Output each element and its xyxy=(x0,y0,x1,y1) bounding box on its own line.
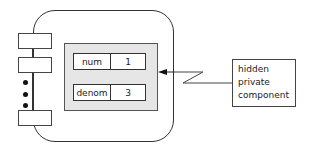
callout-line-3: component xyxy=(238,89,295,102)
ellipsis-dot-2 xyxy=(23,92,28,97)
field-num: num 1 xyxy=(73,53,146,70)
interface-method-tab-1 xyxy=(18,33,52,49)
ellipsis-dot-3 xyxy=(23,103,28,108)
field-name: num xyxy=(74,54,111,69)
field-value: 1 xyxy=(111,54,145,69)
encapsulation-diagram: num 1 denom 3 hidden private component xyxy=(0,0,309,150)
interface-spine xyxy=(32,40,33,120)
field-value: 3 xyxy=(111,85,145,100)
field-denom: denom 3 xyxy=(73,84,146,101)
callout-line-2: private xyxy=(238,76,295,89)
field-name: denom xyxy=(74,85,111,100)
ellipsis-dot-1 xyxy=(23,80,28,85)
callout-line-1: hidden xyxy=(238,63,295,76)
interface-method-tab-3 xyxy=(18,110,52,126)
interface-method-tab-2 xyxy=(18,57,52,73)
callout-label-box: hidden private component xyxy=(232,59,296,107)
